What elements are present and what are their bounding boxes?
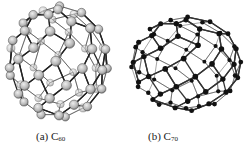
- bond: [192, 81, 198, 97]
- carbon-atom: [47, 79, 54, 86]
- carbon-atom: [173, 84, 179, 90]
- bond: [165, 69, 176, 87]
- caption-c70: (b) C70: [148, 130, 178, 143]
- caption-c60-subscript: 60: [58, 135, 65, 143]
- bond: [168, 41, 187, 50]
- carbon-atom: [170, 88, 174, 92]
- carbon-atom: [6, 71, 14, 79]
- carbon-atom: [158, 21, 163, 26]
- carbon-atom: [70, 69, 77, 76]
- carbon-atom: [158, 46, 164, 52]
- carbon-atom: [189, 108, 194, 113]
- carbon-atom: [195, 42, 201, 48]
- bond: [230, 76, 235, 91]
- carbon-atom: [61, 80, 71, 90]
- carbon-atom: [214, 44, 218, 48]
- carbon-atom: [75, 89, 82, 96]
- carbon-atom: [152, 77, 156, 81]
- carbon-atom: [34, 103, 43, 112]
- carbon-atom: [98, 65, 107, 74]
- bond: [195, 64, 212, 77]
- carbon-atom: [77, 8, 86, 17]
- carbon-atom: [150, 97, 155, 102]
- carbon-atom: [166, 39, 170, 43]
- carbon-atom: [148, 27, 153, 32]
- carbon-atom: [20, 98, 28, 106]
- carbon-atom: [173, 105, 178, 110]
- carbon-atom: [162, 66, 168, 72]
- carbon-atom: [238, 60, 243, 65]
- carbon-atom: [181, 56, 187, 62]
- bond: [180, 26, 197, 35]
- carbon-atom: [5, 63, 14, 72]
- carbon-atom: [8, 36, 17, 45]
- carbon-atom: [140, 50, 144, 54]
- carbon-atom: [51, 56, 61, 66]
- carbon-atom: [203, 89, 208, 94]
- bond: [176, 68, 192, 80]
- panel-c70: (b) C70: [125, 0, 251, 155]
- carbon-atom: [196, 94, 200, 98]
- carbon-atom: [190, 79, 194, 83]
- carbon-atom: [192, 74, 198, 80]
- carbon-atom: [220, 76, 225, 81]
- carbon-atom: [215, 74, 219, 78]
- carbon-atom: [168, 100, 172, 104]
- carbon-atom: [44, 10, 53, 19]
- carbon-atom: [77, 64, 87, 74]
- carbon-atom: [20, 81, 29, 90]
- bond: [186, 50, 204, 62]
- bond: [204, 46, 215, 62]
- carbon-atom: [219, 46, 224, 51]
- bond: [161, 36, 178, 48]
- carbon-atom: [175, 34, 181, 40]
- carbon-atom: [83, 102, 92, 111]
- carbon-atom: [212, 102, 217, 107]
- carbon-atom: [29, 10, 38, 19]
- carbon-atom: [14, 89, 23, 98]
- carbon-atom: [231, 62, 236, 67]
- carbon-atom: [29, 43, 39, 53]
- carbon-atom: [197, 26, 202, 31]
- carbon-atom: [7, 44, 15, 52]
- carbon-atom: [131, 60, 136, 65]
- caption-c60: (a) C60: [36, 130, 65, 143]
- carbon-atom: [19, 19, 27, 27]
- bond: [154, 34, 168, 41]
- carbon-atom: [209, 61, 215, 67]
- carbon-atom: [57, 100, 64, 107]
- carbon-atom: [183, 17, 188, 22]
- carbon-atom: [146, 74, 151, 79]
- carbon-atom: [136, 79, 141, 84]
- carbon-atom: [55, 111, 64, 120]
- caption-c70-subscript: 70: [171, 135, 178, 143]
- carbon-atom: [129, 65, 134, 70]
- carbon-atom: [141, 54, 146, 59]
- c60-molecule-diagram: [0, 0, 125, 125]
- carbon-atom: [45, 94, 55, 104]
- carbon-atom: [195, 32, 199, 36]
- carbon-atom: [34, 70, 44, 80]
- carbon-atom: [200, 20, 204, 24]
- bond: [144, 48, 161, 56]
- carbon-atom: [146, 91, 150, 95]
- carbon-atom: [133, 45, 138, 50]
- carbon-atom: [86, 24, 95, 33]
- c70-molecule-diagram: [125, 0, 251, 125]
- carbon-atom: [136, 40, 141, 45]
- carbon-atom: [69, 100, 78, 109]
- carbon-atom: [216, 31, 221, 36]
- carbon-atom: [184, 48, 188, 52]
- carbon-atom: [136, 84, 141, 89]
- caption-c70-text: (b) C: [148, 130, 171, 142]
- carbon-atom: [38, 38, 45, 45]
- carbon-atom: [197, 104, 201, 108]
- bond: [154, 59, 157, 80]
- carbon-atom: [86, 84, 95, 93]
- carbon-atom: [174, 21, 179, 26]
- carbon-atom: [87, 44, 97, 54]
- carbon-atom: [184, 106, 188, 110]
- carbon-atom: [216, 89, 220, 93]
- carbon-atom: [20, 26, 29, 35]
- bond: [188, 17, 210, 22]
